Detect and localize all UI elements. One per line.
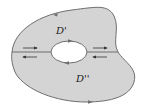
label-lower-region: D'': [75, 73, 90, 84]
hole: [51, 41, 87, 63]
region-diagram: D' D'': [0, 0, 142, 108]
label-upper-region: D': [55, 25, 67, 36]
